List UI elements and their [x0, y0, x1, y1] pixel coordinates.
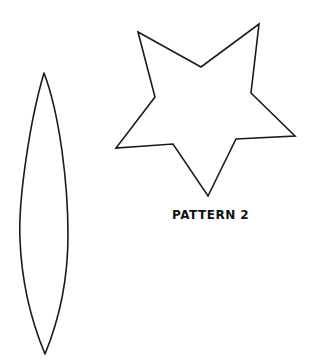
pattern-sheet: [0, 0, 318, 362]
star-shape: [116, 24, 295, 196]
leaf-shape: [20, 73, 68, 354]
pattern-2-label: PATTERN 2: [172, 208, 249, 222]
